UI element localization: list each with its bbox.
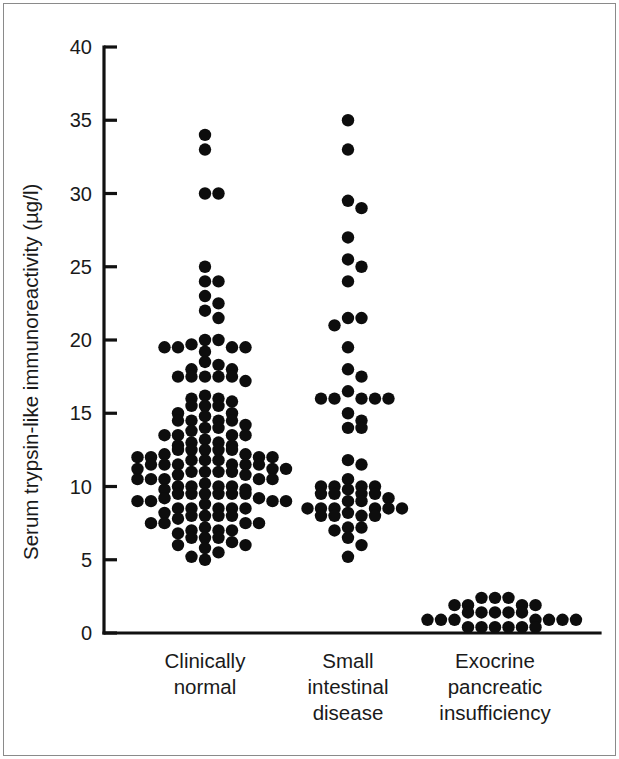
- y-axis-tick-label: 25: [70, 256, 92, 278]
- data-point: [355, 495, 367, 507]
- data-point: [369, 392, 381, 404]
- data-point: [355, 261, 367, 273]
- x-axis-category-label: normal: [174, 675, 237, 698]
- data-point: [212, 334, 224, 346]
- data-point: [462, 606, 474, 618]
- x-axis-category-label: pancreatic: [448, 675, 543, 698]
- data-point: [253, 473, 265, 485]
- data-point: [342, 483, 354, 495]
- data-point: [226, 510, 238, 522]
- data-point: [355, 370, 367, 382]
- data-point: [502, 606, 514, 618]
- data-point: [253, 517, 265, 529]
- data-point: [448, 614, 460, 626]
- data-point: [355, 202, 367, 214]
- data-point: [239, 539, 251, 551]
- data-point: [226, 444, 238, 456]
- data-point: [212, 532, 224, 544]
- data-point: [131, 451, 143, 463]
- data-point: [502, 621, 514, 633]
- data-point: [185, 425, 197, 437]
- data-point: [342, 341, 354, 353]
- y-axis-tick-label: 20: [70, 329, 92, 351]
- data-point: [212, 370, 224, 382]
- data-point: [529, 621, 541, 633]
- data-point: [556, 614, 568, 626]
- data-point: [185, 488, 197, 500]
- data-point: [328, 524, 340, 536]
- data-point: [342, 454, 354, 466]
- data-point: [342, 195, 354, 207]
- data-point: [382, 392, 394, 404]
- data-point: [226, 466, 238, 478]
- data-point: [342, 507, 354, 519]
- data-point: [355, 312, 367, 324]
- data-point: [145, 473, 157, 485]
- data-point: [342, 231, 354, 243]
- data-point: [131, 495, 143, 507]
- data-point: [212, 510, 224, 522]
- data-point: [185, 551, 197, 563]
- data-series-exocrine-pancreatic-insufficiency: [421, 592, 582, 634]
- data-point: [172, 341, 184, 353]
- data-point: [328, 488, 340, 500]
- data-point: [355, 422, 367, 434]
- data-point: [199, 454, 211, 466]
- data-point: [315, 392, 327, 404]
- data-point: [342, 495, 354, 507]
- data-point: [212, 466, 224, 478]
- data-point: [199, 466, 211, 478]
- data-point: [199, 542, 211, 554]
- data-point: [529, 599, 541, 611]
- data-point: [185, 532, 197, 544]
- data-point: [212, 400, 224, 412]
- data-point: [199, 305, 211, 317]
- data-point: [239, 502, 251, 514]
- data-point: [239, 341, 251, 353]
- data-point: [342, 363, 354, 375]
- data-point: [172, 469, 184, 481]
- data-point: [342, 532, 354, 544]
- data-point: [185, 510, 197, 522]
- data-point: [226, 488, 238, 500]
- x-axis-category-label: Small: [322, 649, 373, 672]
- data-point: [475, 606, 487, 618]
- data-point: [212, 187, 224, 199]
- data-point: [239, 517, 251, 529]
- data-point: [172, 527, 184, 539]
- data-point: [145, 458, 157, 470]
- data-point: [266, 473, 278, 485]
- data-point: [355, 539, 367, 551]
- data-point: [226, 395, 238, 407]
- data-point: [199, 261, 211, 273]
- data-point: [382, 502, 394, 514]
- data-point: [253, 492, 265, 504]
- data-point: [145, 495, 157, 507]
- y-axis-tick-label: 30: [70, 183, 92, 205]
- data-point: [172, 488, 184, 500]
- x-axis-category-labels: ClinicallynormalSmallintestinaldiseaseEx…: [165, 649, 552, 724]
- data-point: [185, 400, 197, 412]
- data-point: [355, 521, 367, 533]
- data-point: [172, 513, 184, 525]
- data-point: [516, 621, 528, 633]
- x-axis-category-label: Exocrine: [455, 649, 535, 672]
- data-point: [435, 614, 447, 626]
- data-point: [280, 495, 292, 507]
- data-point: [199, 143, 211, 155]
- data-point: [342, 312, 354, 324]
- data-point: [185, 338, 197, 350]
- y-axis-tick-label: 10: [70, 476, 92, 498]
- data-point: [199, 498, 211, 510]
- data-point: [489, 592, 501, 604]
- y-axis-tick-label: 40: [70, 36, 92, 58]
- x-axis-category-label: insufficiency: [439, 701, 551, 724]
- data-point: [253, 458, 265, 470]
- data-point: [131, 473, 143, 485]
- data-point: [199, 334, 211, 346]
- data-point: [158, 517, 170, 529]
- data-point: [199, 370, 211, 382]
- x-axis-category-label: Clinically: [165, 649, 247, 672]
- data-point: [212, 312, 224, 324]
- data-point: [172, 414, 184, 426]
